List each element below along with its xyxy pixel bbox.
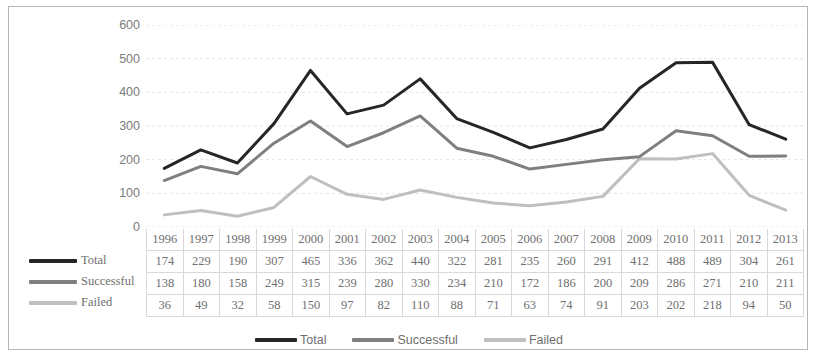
table-header-cell: 2003 — [402, 229, 439, 251]
table-cell: 229 — [183, 251, 220, 273]
table-header-cell: 1998 — [220, 229, 257, 251]
series-line-failed — [164, 154, 785, 217]
table-cell: 200 — [585, 273, 622, 295]
table-cell: 36 — [147, 295, 184, 317]
table-cell: 71 — [475, 295, 512, 317]
table-cell: 281 — [475, 251, 512, 273]
table-cell: 74 — [548, 295, 585, 317]
plot-svg — [146, 25, 804, 227]
table-cell: 94 — [731, 295, 768, 317]
table-cell: 158 — [220, 273, 257, 295]
table-cell: 202 — [658, 295, 695, 317]
data-table: 1996199719981999200020012002200320042005… — [146, 229, 804, 317]
table-cell: 336 — [329, 251, 366, 273]
line-swatch-icon — [29, 301, 77, 305]
table-cell: 138 — [147, 273, 184, 295]
table-row: 1742291903074653363624403222812352602914… — [147, 251, 804, 273]
table-cell: 412 — [621, 251, 658, 273]
table-cell: 97 — [329, 295, 366, 317]
table-cell: 211 — [767, 273, 804, 295]
table-cell: 271 — [694, 273, 731, 295]
table-cell: 174 — [147, 251, 184, 273]
legend-line-swatch-icon — [255, 338, 297, 342]
y-axis: 6005004003002001000 — [104, 7, 140, 247]
table-cell: 440 — [402, 251, 439, 273]
table-row-label-text: Failed — [81, 295, 112, 310]
table-header-cell: 2011 — [694, 229, 731, 251]
table-header-cell: 2009 — [621, 229, 658, 251]
y-axis-tick-label: 200 — [104, 154, 140, 167]
table-cell: 50 — [767, 295, 804, 317]
y-axis-tick-label: 100 — [104, 187, 140, 200]
table-cell: 172 — [512, 273, 549, 295]
table-cell: 260 — [548, 251, 585, 273]
table-cell: 304 — [731, 251, 768, 273]
table-header-cell: 2007 — [548, 229, 585, 251]
table-row: 3649325815097821108871637491203202218945… — [147, 295, 804, 317]
table-cell: 82 — [366, 295, 403, 317]
table-header-cell: 2006 — [512, 229, 549, 251]
table-cell: 32 — [220, 295, 257, 317]
y-axis-tick-label: 400 — [104, 86, 140, 99]
table-header-cell: 1996 — [147, 229, 184, 251]
chart-container: 6005004003002001000 TotalSuccessfulFaile… — [0, 0, 816, 363]
y-axis-tick-label: 0 — [104, 221, 140, 234]
table-header-cell: 2005 — [475, 229, 512, 251]
table-header-cell: 2008 — [585, 229, 622, 251]
table-cell: 49 — [183, 295, 220, 317]
table-header-cell: 2000 — [293, 229, 330, 251]
chart-frame: 6005004003002001000 TotalSuccessfulFaile… — [8, 6, 808, 350]
legend-label: Total — [300, 333, 326, 347]
legend-item-total[interactable]: Total — [255, 333, 326, 347]
table-cell: 280 — [366, 273, 403, 295]
table-cell: 307 — [256, 251, 293, 273]
table-header-cell: 1999 — [256, 229, 293, 251]
table-row-label-failed: Failed — [29, 292, 146, 313]
table-header-cell: 2002 — [366, 229, 403, 251]
table-cell: 249 — [256, 273, 293, 295]
table-header-cell: 2013 — [767, 229, 804, 251]
y-axis-tick-label: 500 — [104, 53, 140, 66]
table-cell: 110 — [402, 295, 439, 317]
y-axis-tick-label: 300 — [104, 120, 140, 133]
legend-line-swatch-icon — [484, 338, 526, 342]
table-row-label-total: Total — [29, 250, 146, 271]
table-cell: 488 — [658, 251, 695, 273]
table-cell: 261 — [767, 251, 804, 273]
table-cell: 465 — [293, 251, 330, 273]
table-cell: 91 — [585, 295, 622, 317]
chart-legend: TotalSuccessfulFailed — [9, 333, 809, 347]
table-cell: 315 — [293, 273, 330, 295]
table-cell: 234 — [439, 273, 476, 295]
table-cell: 63 — [512, 295, 549, 317]
table-row-labels: TotalSuccessfulFailed — [29, 250, 146, 313]
plot-area — [146, 25, 804, 227]
table-header-row: 1996199719981999200020012002200320042005… — [147, 229, 804, 251]
table-cell: 190 — [220, 251, 257, 273]
table-header-cell: 2012 — [731, 229, 768, 251]
line-swatch-icon — [29, 259, 77, 263]
table-cell: 291 — [585, 251, 622, 273]
table-cell: 210 — [731, 273, 768, 295]
legend-line-swatch-icon — [352, 338, 394, 342]
table-cell: 209 — [621, 273, 658, 295]
table-cell: 218 — [694, 295, 731, 317]
table-cell: 210 — [475, 273, 512, 295]
table-header-cell: 2004 — [439, 229, 476, 251]
table-cell: 239 — [329, 273, 366, 295]
legend-item-successful[interactable]: Successful — [352, 333, 457, 347]
y-axis-tick-label: 600 — [104, 19, 140, 32]
table-row: 1381801582493152392803302342101721862002… — [147, 273, 804, 295]
table-cell: 58 — [256, 295, 293, 317]
table-header-cell: 2010 — [658, 229, 695, 251]
legend-item-failed[interactable]: Failed — [484, 333, 563, 347]
table-cell: 180 — [183, 273, 220, 295]
table-cell: 88 — [439, 295, 476, 317]
table-row-label-text: Successful — [81, 274, 134, 289]
table-cell: 330 — [402, 273, 439, 295]
table-header-cell: 2001 — [329, 229, 366, 251]
table-cell: 489 — [694, 251, 731, 273]
table-cell: 203 — [621, 295, 658, 317]
table-row-label-successful: Successful — [29, 271, 146, 292]
table-cell: 286 — [658, 273, 695, 295]
